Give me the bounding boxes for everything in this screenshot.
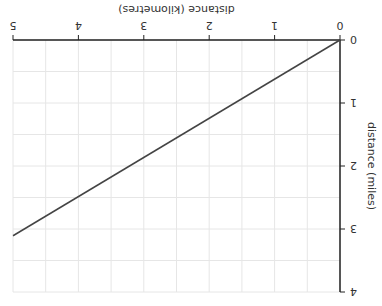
- y-tick-label: 3: [350, 222, 357, 235]
- y-tick-label: 2: [350, 159, 357, 172]
- x-tick-label: 5: [10, 19, 17, 32]
- x-tick-label: 2: [206, 19, 213, 32]
- km-miles-chart: 01234501234 distance (kilometres) distan…: [0, 0, 382, 306]
- x-tick-label: 3: [140, 19, 147, 32]
- y-axis-label: distance (miles): [365, 122, 378, 210]
- y-tick-label: 0: [350, 33, 357, 46]
- y-tick-label: 1: [350, 96, 357, 109]
- x-tick-label: 4: [75, 19, 82, 32]
- chart-stage: 01234501234 distance (kilometres) distan…: [0, 0, 382, 306]
- y-tick-label: 4: [350, 285, 357, 298]
- x-tick-label: 0: [337, 19, 344, 32]
- x-axis-label: distance (kilometres): [118, 3, 234, 16]
- grid: [13, 40, 340, 292]
- x-tick-label: 1: [271, 19, 278, 32]
